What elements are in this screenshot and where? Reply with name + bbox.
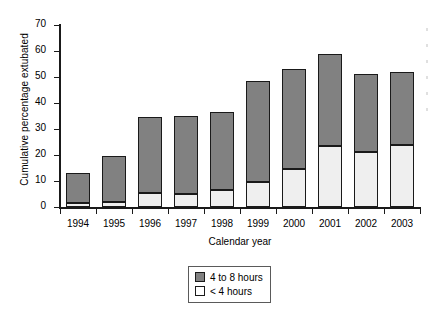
bar-segment-under-4-hours: [66, 203, 89, 207]
y-tick-label: 60: [35, 44, 46, 55]
x-tick-label: 1998: [211, 218, 233, 229]
scan-artifact-dot: [426, 44, 428, 47]
bar-group: [318, 54, 341, 207]
x-tick: [276, 208, 277, 214]
bar-segment-4-to-8-hours: [354, 74, 377, 152]
bar-segment-4-to-8-hours: [210, 112, 233, 190]
bar-group: [210, 112, 233, 207]
x-tick-label: 2002: [355, 218, 377, 229]
bar-segment-under-4-hours: [282, 169, 305, 207]
y-tick: 30: [54, 129, 60, 130]
x-tick-label: 1996: [139, 218, 161, 229]
scan-artifact-dot: [426, 76, 428, 79]
scan-artifact-dot: [426, 28, 428, 31]
bar-segment-under-4-hours: [318, 146, 341, 207]
legend-item-lower: < 4 hours: [195, 284, 263, 298]
bar-segment-under-4-hours: [138, 193, 161, 207]
x-tick: [204, 208, 205, 214]
y-tick: 20: [54, 155, 60, 156]
legend-swatch-4-to-8-hours: [195, 272, 205, 282]
y-tick-label: 10: [35, 174, 46, 185]
bar-segment-4-to-8-hours: [390, 72, 413, 145]
bar-segment-under-4-hours: [210, 190, 233, 207]
y-tick-label: 0: [40, 200, 46, 211]
legend-label-4-to-8-hours: 4 to 8 hours: [210, 272, 263, 283]
plot-area: 010203040506070 199419951996199719981999…: [60, 25, 420, 207]
y-tick-label: 30: [35, 122, 46, 133]
bar-group: [102, 156, 125, 207]
x-tick: [384, 208, 385, 214]
x-tick: [60, 208, 61, 214]
legend-swatch-under-4-hours: [195, 286, 205, 296]
y-tick-label: 20: [35, 148, 46, 159]
bar-segment-under-4-hours: [246, 182, 269, 207]
bar-group: [174, 116, 197, 207]
y-tick-label: 40: [35, 96, 46, 107]
y-tick-label: 50: [35, 70, 46, 81]
x-tick-label: 2001: [319, 218, 341, 229]
x-tick: [348, 208, 349, 214]
scan-artifact-dot: [426, 92, 428, 95]
x-tick: [132, 208, 133, 214]
x-axis-title: Calendar year: [60, 236, 420, 247]
bar-segment-4-to-8-hours: [318, 54, 341, 146]
bar-segment-under-4-hours: [174, 194, 197, 207]
x-tick-label: 1999: [247, 218, 269, 229]
x-tick: [240, 208, 241, 214]
bar-segment-4-to-8-hours: [66, 173, 89, 203]
y-tick: 10: [54, 181, 60, 182]
chart-figure: Cumulative percentage extubated 01020304…: [0, 0, 436, 310]
bar-segment-under-4-hours: [354, 152, 377, 207]
x-tick: [312, 208, 313, 214]
x-tick: [96, 208, 97, 214]
y-tick-label: 70: [35, 18, 46, 29]
bar-group: [66, 173, 89, 207]
scan-artifact-dot: [426, 60, 428, 63]
legend-label-under-4-hours: < 4 hours: [210, 286, 252, 297]
y-tick: 60: [54, 51, 60, 52]
y-axis-title: Cumulative percentage extubated: [19, 20, 30, 200]
x-tick: [168, 208, 169, 214]
x-tick: [420, 208, 421, 214]
scan-artifact-marks: [426, 26, 429, 118]
x-tick-label: 2000: [283, 218, 305, 229]
bar-segment-4-to-8-hours: [246, 81, 269, 182]
bar-group: [282, 69, 305, 207]
bar-segment-under-4-hours: [102, 202, 125, 207]
bar-segment-4-to-8-hours: [174, 116, 197, 194]
x-tick-label: 1997: [175, 218, 197, 229]
bar-segment-under-4-hours: [390, 145, 413, 207]
x-tick-label: 1995: [103, 218, 125, 229]
bar-segment-4-to-8-hours: [282, 69, 305, 169]
bar-group: [390, 72, 413, 207]
y-tick: 40: [54, 103, 60, 104]
x-tick-label: 2003: [391, 218, 413, 229]
x-tick-label: 1994: [67, 218, 89, 229]
legend-item-upper: 4 to 8 hours: [195, 270, 263, 284]
bar-segment-4-to-8-hours: [138, 117, 161, 192]
scan-artifact-dot: [426, 108, 428, 111]
chart-legend: 4 to 8 hours < 4 hours: [188, 266, 271, 303]
y-tick: 50: [54, 77, 60, 78]
bar-group: [246, 81, 269, 207]
y-tick: 70: [54, 25, 60, 26]
bar-group: [138, 117, 161, 207]
bar-group: [354, 74, 377, 207]
bar-segment-4-to-8-hours: [102, 156, 125, 202]
